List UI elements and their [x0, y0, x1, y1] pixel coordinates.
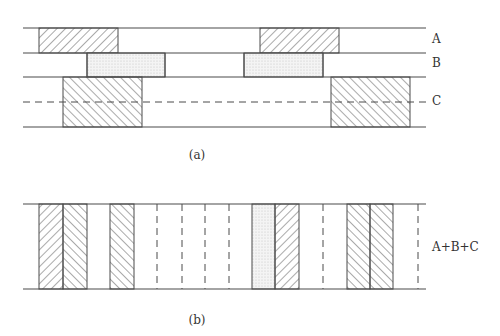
- signal-block-b: [244, 53, 323, 77]
- combined-stripe: [110, 204, 134, 289]
- row-label-c: C: [432, 95, 441, 107]
- row-label-b: B: [432, 57, 441, 69]
- timing-diagram: [0, 0, 500, 336]
- combined-stripe: [370, 204, 393, 289]
- signal-block-a: [260, 28, 339, 53]
- combined-stripe: [39, 204, 63, 289]
- caption-b: (b): [188, 314, 205, 326]
- caption-a: (a): [189, 149, 206, 161]
- combined-stripe: [252, 204, 275, 289]
- sum-label: A+B+C: [432, 241, 479, 253]
- signal-block-a: [39, 28, 118, 53]
- panel-a: [23, 28, 426, 127]
- combined-stripe: [63, 204, 87, 289]
- signal-block-b: [87, 53, 165, 77]
- row-label-a: A: [432, 33, 441, 45]
- combined-stripe: [347, 204, 370, 289]
- panel-b: [23, 204, 426, 289]
- combined-stripe: [275, 204, 299, 289]
